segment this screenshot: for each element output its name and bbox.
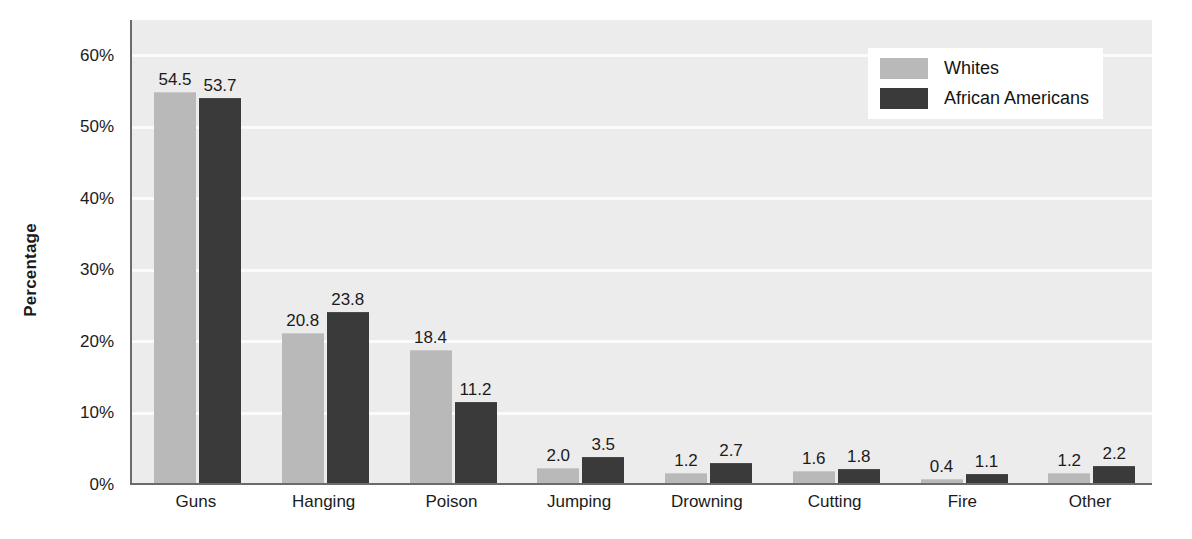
bar[interactable]: [1093, 466, 1135, 483]
legend-label: Whites: [944, 58, 999, 79]
x-axis-tick-label: Drowning: [671, 492, 743, 512]
bar-value-label: 1.2: [674, 452, 698, 469]
bar[interactable]: [838, 469, 880, 483]
x-axis-tick-label: Other: [1069, 492, 1112, 512]
bar-value-label: 1.1: [975, 453, 999, 470]
bar[interactable]: [665, 473, 707, 483]
y-axis-tick-label: 60%: [80, 46, 114, 66]
x-axis-tick-label: Jumping: [547, 492, 611, 512]
y-axis-tick-label: 20%: [80, 332, 114, 352]
y-axis-tick-label: 30%: [80, 260, 114, 280]
y-axis-tick-label: 10%: [80, 403, 114, 423]
legend-label: African Americans: [944, 88, 1089, 109]
bar[interactable]: [710, 463, 752, 483]
bar[interactable]: [327, 312, 369, 483]
bar[interactable]: [199, 98, 241, 483]
bar-value-label: 18.4: [414, 329, 447, 346]
legend-swatch: [880, 58, 928, 79]
x-axis-tick-label: Hanging: [292, 492, 355, 512]
bar-value-label: 1.8: [847, 448, 871, 465]
bar-value-label: 3.5: [591, 436, 615, 453]
bar[interactable]: [537, 468, 579, 483]
y-axis-title: Percentage: [14, 0, 48, 539]
bar-chart: Percentage 0%10%20%30%40%50%60% 54.553.7…: [0, 0, 1192, 539]
x-axis-tick-label: Fire: [948, 492, 977, 512]
y-axis-tick-label: 50%: [80, 117, 114, 137]
chart-legend: WhitesAfrican Americans: [868, 48, 1103, 119]
legend-entry[interactable]: Whites: [880, 58, 1089, 79]
bar[interactable]: [154, 92, 196, 483]
y-axis-tick-labels: 0%10%20%30%40%50%60%: [48, 20, 122, 485]
x-axis-tick-label: Guns: [176, 492, 217, 512]
bar-value-label: 1.6: [802, 450, 826, 467]
legend-swatch: [880, 88, 928, 109]
bar-group: 2.03.5: [515, 20, 643, 483]
y-axis-tick-label: 40%: [80, 189, 114, 209]
x-axis-tick-label: Poison: [425, 492, 477, 512]
bar-value-label: 2.7: [719, 442, 743, 459]
bar[interactable]: [1048, 473, 1090, 483]
bar-value-label: 0.4: [930, 458, 954, 475]
bar[interactable]: [410, 350, 452, 483]
bar[interactable]: [455, 402, 497, 483]
x-axis-tick-labels: GunsHangingPoisonJumpingDrowningCuttingF…: [130, 492, 1152, 524]
bar-value-label: 20.8: [286, 312, 319, 329]
y-axis-tick-label: 0%: [89, 475, 114, 495]
bar[interactable]: [582, 457, 624, 483]
bar-value-label: 11.2: [460, 381, 492, 398]
bar-value-label: 2.0: [546, 447, 570, 464]
bar-group: 54.553.7: [132, 20, 260, 483]
bar[interactable]: [282, 333, 324, 483]
bar-group: 18.411.2: [388, 20, 516, 483]
bar[interactable]: [966, 474, 1008, 483]
bar[interactable]: [921, 479, 963, 483]
bar-group: 20.823.8: [260, 20, 388, 483]
legend-entry[interactable]: African Americans: [880, 88, 1089, 109]
x-axis-tick-label: Cutting: [808, 492, 862, 512]
bar-value-label: 53.7: [203, 77, 236, 94]
bar-value-label: 2.2: [1102, 445, 1126, 462]
y-axis-title-text: Percentage: [21, 223, 41, 317]
bar-value-label: 1.2: [1057, 452, 1081, 469]
bar-value-label: 54.5: [158, 71, 191, 88]
bar[interactable]: [793, 471, 835, 483]
bar-group: 1.22.7: [643, 20, 771, 483]
bar-value-label: 23.8: [331, 291, 364, 308]
